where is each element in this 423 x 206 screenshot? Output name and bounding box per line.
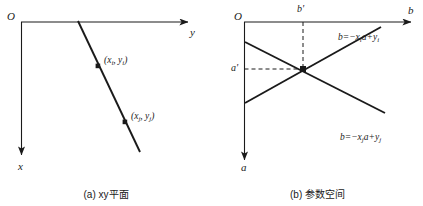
origin-label-a: O bbox=[7, 11, 15, 22]
panel-a-graphics bbox=[0, 0, 212, 180]
point-i-close: ) bbox=[124, 55, 127, 65]
a-prime-tick-label: a' bbox=[231, 63, 238, 73]
caption-panel-b: (b) 参数空间 bbox=[212, 186, 423, 201]
x-axis-label: x bbox=[18, 161, 23, 172]
panel-xy-plane: O y x (xi, yi) (xj, yj) (a) xy平面 bbox=[0, 0, 212, 206]
parameter-line-j bbox=[245, 42, 385, 113]
b-prime-tick-label: b' bbox=[297, 4, 304, 14]
equation-label-i: b=−xia+yi bbox=[338, 33, 379, 44]
point-marker-j bbox=[123, 120, 128, 125]
a-axis-label: a bbox=[241, 162, 247, 173]
point-marker-i bbox=[96, 64, 101, 69]
panel-b-graphics bbox=[212, 0, 423, 180]
image-space-line bbox=[78, 21, 140, 152]
point-label-j: (xj, yj) bbox=[131, 112, 154, 123]
intersection-marker bbox=[300, 66, 306, 72]
hough-transform-figure: O y x (xi, yi) (xj, yj) (a) xy平面 bbox=[0, 0, 423, 206]
origin-label-b: O bbox=[234, 11, 242, 22]
equation-label-j: b=−xja+yj bbox=[340, 133, 381, 144]
panel-parameter-space: O b a b' a' b=−xia+yi b=−xja+yj (b) 参数空间 bbox=[212, 0, 423, 206]
point-label-i: (xi, yi) bbox=[104, 56, 127, 67]
eq-j-y-sub: j bbox=[379, 136, 381, 144]
caption-panel-a: (a) xy平面 bbox=[0, 186, 212, 201]
b-axis-label: b bbox=[408, 5, 414, 16]
eq-i-y-sub: i bbox=[377, 36, 379, 44]
point-j-close: ) bbox=[151, 111, 154, 121]
y-axis-label: y bbox=[190, 27, 195, 38]
